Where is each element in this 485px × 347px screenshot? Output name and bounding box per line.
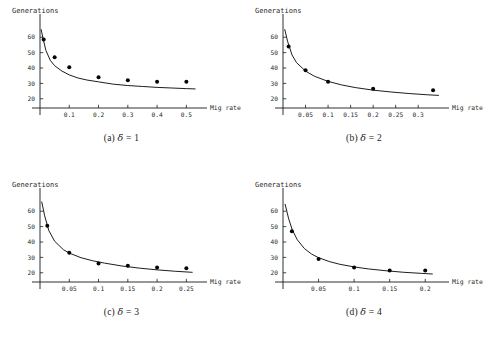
y-axis-tick-label: 30 <box>271 80 279 87</box>
x-axis-label: Mig rate <box>210 278 241 286</box>
caption-delta-symbol-b: δ <box>360 132 366 143</box>
caption-value-b: = 2 <box>369 133 382 143</box>
x-axis-tick-label: 0.05 <box>298 111 313 118</box>
data-point <box>155 265 159 269</box>
x-axis-tick-label: 0.2 <box>368 111 379 118</box>
x-axis-tick-label: 0.05 <box>62 285 77 292</box>
panel-caption-d: (d) δ = 4 <box>243 306 485 317</box>
data-point <box>184 266 188 270</box>
data-point <box>42 38 46 42</box>
plot-area-a: Generations0.10.20.30.40.52030405060Mig … <box>0 0 243 132</box>
caption-delta-symbol-c: δ <box>118 306 124 317</box>
data-point <box>184 80 188 84</box>
x-axis-tick-label: 0.1 <box>349 285 360 292</box>
y-axis-tick-label: 40 <box>271 238 279 245</box>
data-point <box>155 80 159 84</box>
caption-index-a: (a) <box>104 133 115 143</box>
x-axis-label: Mig rate <box>452 104 483 112</box>
caption-value-d: = 4 <box>369 307 382 317</box>
x-axis-tick-label: 0.15 <box>343 111 358 118</box>
x-axis-tick-label: 0.05 <box>311 285 326 292</box>
caption-delta-symbol-a: δ <box>118 132 124 143</box>
y-axis-tick-label: 40 <box>28 64 36 71</box>
scatter-plot-b: Generations0.050.10.150.20.250.320304050… <box>243 0 485 132</box>
data-point <box>97 75 101 79</box>
data-point <box>53 55 57 59</box>
x-axis-label: Mig rate <box>210 104 241 112</box>
data-point <box>304 68 308 72</box>
plot-area-b: Generations0.050.10.150.20.250.320304050… <box>243 0 485 132</box>
data-point <box>126 78 130 82</box>
figure-panel-d: Generations0.050.10.150.22030405060Mig r… <box>243 174 485 347</box>
x-axis-tick-label: 0.2 <box>151 285 162 292</box>
caption-index-b: (b) <box>346 133 358 143</box>
figure-panel-a: Generations0.10.20.30.40.52030405060Mig … <box>0 0 243 174</box>
caption-index-d: (d) <box>346 307 358 317</box>
caption-value-c: = 3 <box>126 307 139 317</box>
plot-area-d: Generations0.050.10.150.22030405060Mig r… <box>243 174 485 306</box>
x-axis-tick-label: 0.25 <box>179 285 194 292</box>
x-axis-tick-label: 0.5 <box>181 111 192 118</box>
figure-panel-b: Generations0.050.10.150.20.250.320304050… <box>243 0 485 174</box>
y-axis-tick-label: 60 <box>28 207 36 214</box>
caption-value-a: = 1 <box>126 133 139 143</box>
y-axis-tick-label: 60 <box>271 207 279 214</box>
x-axis-tick-label: 0.25 <box>388 111 403 118</box>
x-axis-tick-label: 0.1 <box>93 285 104 292</box>
fitted-curve <box>285 30 439 96</box>
y-axis-tick-label: 60 <box>271 33 279 40</box>
y-axis-tick-label: 50 <box>28 223 36 230</box>
plot-area-c: Generations0.050.10.150.20.252030405060M… <box>0 174 243 306</box>
x-axis-tick-label: 0.2 <box>93 111 104 118</box>
data-point <box>45 224 49 228</box>
data-point <box>317 257 321 261</box>
panel-caption-a: (a) δ = 1 <box>0 132 243 143</box>
y-axis-label: Generations <box>12 181 58 189</box>
data-point <box>97 262 101 266</box>
figure-panel-c: Generations0.050.10.150.20.252030405060M… <box>0 174 243 347</box>
data-point <box>352 265 356 269</box>
y-axis-label: Generations <box>255 7 301 15</box>
x-axis-tick-label: 0.15 <box>382 285 397 292</box>
data-point <box>423 268 427 272</box>
data-point <box>388 268 392 272</box>
fitted-curve <box>41 30 195 89</box>
data-point <box>67 251 71 255</box>
y-axis-tick-label: 20 <box>271 95 279 102</box>
scatter-plot-d: Generations0.050.10.150.22030405060Mig r… <box>243 174 485 306</box>
data-point <box>371 87 375 91</box>
caption-delta-symbol-d: δ <box>360 306 366 317</box>
x-axis-tick-label: 0.1 <box>64 111 75 118</box>
y-axis-tick-label: 50 <box>271 223 279 230</box>
caption-index-c: (c) <box>104 307 115 317</box>
x-axis-tick-label: 0.4 <box>151 111 162 118</box>
scatter-plot-a: Generations0.10.20.30.40.52030405060Mig … <box>0 0 243 132</box>
x-axis-tick-label: 0.3 <box>122 111 133 118</box>
x-axis-tick-label: 0.15 <box>120 285 135 292</box>
y-axis-tick-label: 30 <box>28 80 36 87</box>
y-axis-tick-label: 60 <box>28 33 36 40</box>
panel-caption-b: (b) δ = 2 <box>243 132 485 143</box>
y-axis-tick-label: 30 <box>28 254 36 261</box>
figure-grid: Generations0.10.20.30.40.52030405060Mig … <box>0 0 485 347</box>
x-axis-tick-label: 0.2 <box>420 285 431 292</box>
y-axis-tick-label: 20 <box>271 269 279 276</box>
data-point <box>326 80 330 84</box>
fitted-curve <box>42 202 192 272</box>
data-point <box>67 65 71 69</box>
y-axis-label: Generations <box>255 181 301 189</box>
x-axis-label: Mig rate <box>452 278 483 286</box>
data-point <box>290 229 294 233</box>
data-point <box>126 264 130 268</box>
y-axis-tick-label: 20 <box>28 95 36 102</box>
scatter-plot-c: Generations0.050.10.150.20.252030405060M… <box>0 174 243 306</box>
y-axis-tick-label: 20 <box>28 269 36 276</box>
y-axis-tick-label: 50 <box>271 49 279 56</box>
y-axis-tick-label: 40 <box>271 64 279 71</box>
data-point <box>431 88 435 92</box>
panel-caption-c: (c) δ = 3 <box>0 306 243 317</box>
fitted-curve <box>285 204 432 274</box>
x-axis-tick-label: 0.1 <box>322 111 333 118</box>
y-axis-tick-label: 30 <box>271 254 279 261</box>
y-axis-label: Generations <box>12 7 58 15</box>
